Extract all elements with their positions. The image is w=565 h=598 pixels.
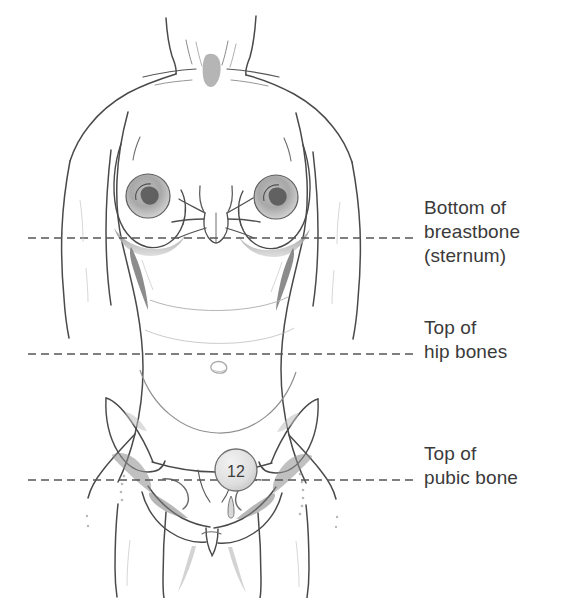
- areola-right: [254, 175, 298, 219]
- sternal-notch: [203, 54, 221, 87]
- navel: [211, 362, 227, 374]
- pelvis-shading: [112, 412, 312, 519]
- diagram-page: 12 Bottom of breastbone (sternum) Top of…: [0, 0, 565, 598]
- groin-shading: [178, 546, 246, 593]
- label-bottom-of-breastbone: Bottom of breastbone (sternum): [424, 196, 520, 268]
- bone-texture-dots: [86, 473, 338, 529]
- breast-right-fold: [276, 248, 294, 311]
- lower-abdomen-curve: [140, 370, 296, 433]
- device-marker-value: 12: [227, 463, 245, 480]
- label-top-of-pubic-bone: Top of pubic bone: [424, 442, 518, 490]
- breast-left-fold: [130, 247, 148, 310]
- label-top-of-hip-bones: Top of hip bones: [424, 316, 507, 364]
- torso-outline: [62, 16, 361, 598]
- areola-left: [126, 174, 170, 218]
- anatomy-illustration: 12: [0, 0, 565, 598]
- abdomen-contours: [145, 297, 294, 343]
- skin-hatching: [80, 200, 340, 587]
